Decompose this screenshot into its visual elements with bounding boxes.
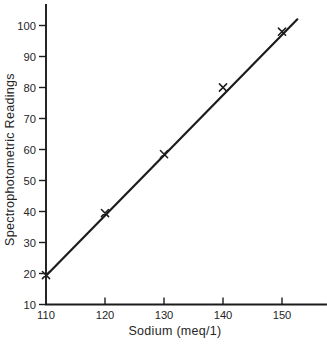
y-axis-title: Spectrophotometric Readings <box>1 40 18 280</box>
y-tick-label: 90 <box>24 51 36 63</box>
y-tick-label: 100 <box>17 20 36 32</box>
x-tick-label: 130 <box>155 309 174 321</box>
y-tick-label: 70 <box>24 113 36 125</box>
axes-lines <box>46 5 326 305</box>
y-tick-label: 80 <box>24 82 36 94</box>
x-tick-label: 110 <box>37 309 55 321</box>
y-tick-label: 40 <box>24 206 36 218</box>
y-tick-label: 50 <box>24 175 36 187</box>
data-point-marker <box>219 84 226 91</box>
x-tick-label: 140 <box>214 309 233 321</box>
calibration-figure: 102030405060708090100110120130140150 Spe… <box>0 0 327 347</box>
y-tick-label: 20 <box>24 268 36 280</box>
x-tick-label: 150 <box>273 309 292 321</box>
y-tick-label: 10 <box>24 299 36 311</box>
y-tick-label: 30 <box>24 237 36 249</box>
y-tick-label: 60 <box>24 144 36 156</box>
fit-line <box>46 19 297 275</box>
x-axis-title: Sodium (meq/1) <box>75 324 275 338</box>
calibration-chart: 102030405060708090100110120130140150 <box>0 0 327 347</box>
x-tick-label: 120 <box>96 309 115 321</box>
